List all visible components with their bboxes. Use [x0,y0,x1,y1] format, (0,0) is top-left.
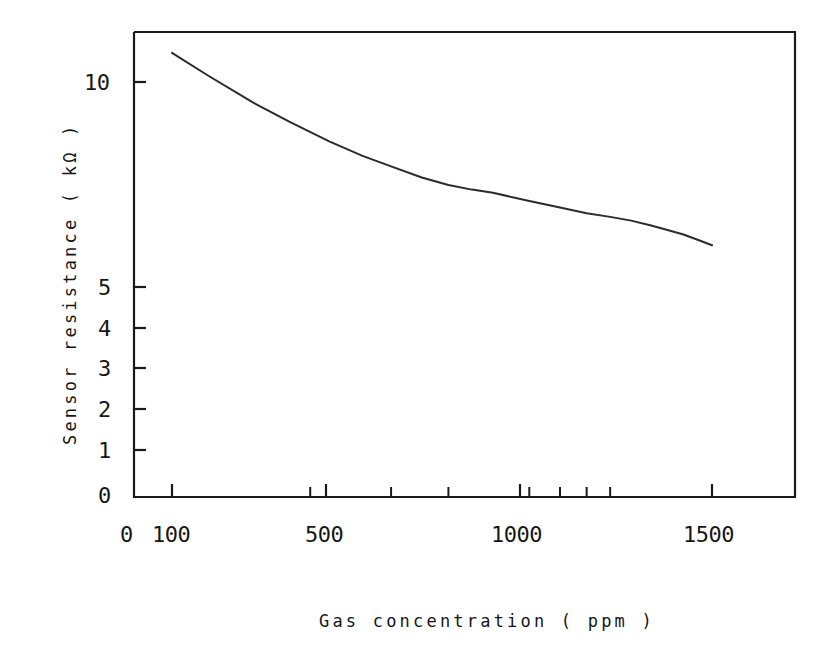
x-tick-label-100: 100 [152,522,190,547]
y-tick-label-0: 0 [98,483,111,508]
x-axis-minor-ticks [310,487,610,497]
sensor-resistance-plot [0,0,837,662]
y-tick-label-2: 2 [98,397,111,422]
x-tick-label-500: 500 [305,522,343,547]
y-axis-ticks [134,82,146,450]
x-axis-ticks [172,484,712,497]
y-axis-title: Sensor resistance ( kΩ ) [60,123,80,445]
y-tick-label-10: 10 [84,70,110,95]
y-tick-label-4: 4 [98,316,111,341]
x-tick-label-1000: 1000 [491,522,542,547]
x-axis-title: Gas concentration ( ppm ) [319,611,655,631]
x-tick-label-0: 0 [120,522,133,547]
plot-frame [134,32,795,497]
y-tick-label-3: 3 [98,356,111,381]
chart-figure: 10 5 4 3 2 1 0 0 100 500 1000 1500 Senso… [0,0,837,662]
y-tick-label-5: 5 [98,275,111,300]
x-tick-label-1500: 1500 [683,522,734,547]
data-series-line [172,53,712,245]
y-tick-label-1: 1 [98,438,111,463]
